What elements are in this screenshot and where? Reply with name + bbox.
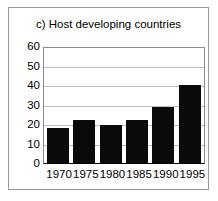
y-tick-label: 40: [6, 80, 40, 91]
x-tick-label: 1985: [126, 168, 148, 184]
x-tick-label: 1980: [100, 168, 122, 184]
y-tick-label: 60: [6, 41, 40, 52]
plot-area: [43, 47, 205, 164]
bar: [126, 120, 148, 163]
bar: [73, 120, 95, 163]
x-tick-label: 1995: [180, 168, 202, 184]
y-axis-tick-labels: 0102030405060: [3, 47, 40, 164]
x-tick-label: 1990: [153, 168, 175, 184]
bar: [152, 107, 174, 163]
x-axis-tick-labels: 197019751980198519901995: [43, 168, 205, 184]
y-tick-label: 30: [6, 100, 40, 111]
x-tick-label: 1970: [46, 168, 68, 184]
chart-figure: c) Host developing countries 01020304050…: [0, 0, 218, 201]
bar: [100, 125, 122, 163]
chart-title: c) Host developing countries: [8, 18, 209, 30]
y-tick-label: 0: [6, 158, 40, 169]
y-tick-label: 10: [6, 139, 40, 150]
x-tick-label: 1975: [73, 168, 95, 184]
y-tick-label: 20: [6, 119, 40, 130]
bar: [179, 85, 201, 163]
bar-series: [44, 48, 204, 163]
bar: [47, 128, 69, 163]
y-tick-label: 50: [6, 61, 40, 72]
